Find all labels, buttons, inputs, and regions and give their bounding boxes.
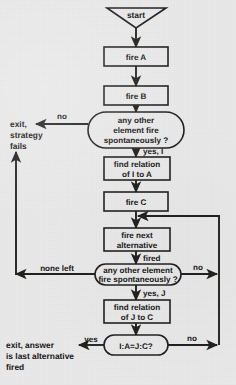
terminal-exit-answer-line-1: exit, answer [6, 340, 55, 350]
node-start-label: start [127, 10, 145, 20]
node-find-relation-ia-line-2: of I to A [122, 170, 152, 179]
node-decision-2-line-2: fire spontaneously ? [98, 275, 177, 284]
edge-label-decision-2-yes: yes, J [143, 289, 166, 298]
edge-label-fired: fired [143, 254, 161, 263]
node-decision-1-line-2: element fire [113, 126, 159, 135]
node-find-relation-jc-line-1: find relation [114, 303, 160, 312]
terminal-exit-fail-line-1: exit, [10, 119, 27, 129]
terminal-exit-answer-line-3: fired [6, 362, 24, 372]
flowchart-canvas: start fire A fire B any other element fi… [0, 0, 236, 385]
edge-label-none-left: none left [40, 264, 74, 273]
node-fire-next-line-2: alternative [117, 241, 158, 250]
edge-label-decision-2-no: no [193, 263, 203, 272]
node-fire-next-line-1: fire next [121, 231, 153, 240]
terminal-exit-fail-line-2: strategy [10, 130, 43, 140]
node-proportion-test-label: I:A=J:C? [119, 342, 153, 351]
node-decision-1-line-3: spontaneously ? [104, 136, 168, 145]
edge-label-proportion-no: no [187, 334, 197, 343]
node-find-relation-ia-line-1: find relation [114, 160, 160, 169]
node-fire-b-label: fire B [126, 92, 147, 101]
flowchart-svg: start fire A fire B any other element fi… [0, 0, 236, 385]
edge-label-proportion-yes: yes [84, 335, 98, 344]
node-decision-2-line-1: any other element [103, 266, 173, 275]
node-fire-c-label: fire C [126, 198, 147, 207]
terminal-exit-answer-line-2: is last alternative [6, 351, 74, 361]
edge-label-decision-1-no: no [57, 112, 67, 121]
node-fire-a-label: fire A [126, 53, 147, 62]
terminal-exit-fail-line-3: fails [10, 141, 27, 151]
node-find-relation-jc-line-2: of J to C [121, 313, 154, 322]
node-decision-1-line-1: any other [118, 116, 155, 125]
edge-label-decision-1-yes: yes, I [143, 147, 163, 156]
